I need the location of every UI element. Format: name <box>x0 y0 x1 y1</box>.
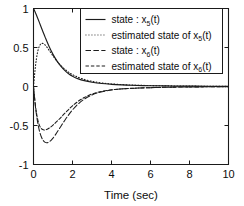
x-tick-label: 0 <box>30 168 36 180</box>
y-tick-label: 0 <box>22 81 28 93</box>
chart-figure: 0246810 -1-0.500.51 Time (sec) state : x… <box>0 0 244 206</box>
chart-legend[interactable]: state : x5(t)estimated state of x5(t)sta… <box>81 9 223 74</box>
legend-label-1: state : x5(t) <box>112 14 160 27</box>
legend-label-2: estimated state of x5(t) <box>112 30 212 43</box>
x-tick-label: 6 <box>147 168 153 180</box>
y-tick-label: 0.5 <box>13 42 28 54</box>
series-line-3 <box>34 87 229 143</box>
x-tick-label: 10 <box>222 168 234 180</box>
x-tick-label: 4 <box>108 168 114 180</box>
legend-label-3: state : x6(t) <box>112 45 160 58</box>
legend-label-4: estimated state of x6(t) <box>112 61 212 74</box>
x-tick-label: 2 <box>69 168 75 180</box>
line-chart: 0246810 -1-0.500.51 Time (sec) state : x… <box>0 0 244 206</box>
x-tick-label: 8 <box>186 168 192 180</box>
y-tick-label: -0.5 <box>10 120 29 132</box>
y-tick-label: -1 <box>19 159 29 171</box>
y-tick-label: 1 <box>22 3 28 15</box>
x-axis-label: Time (sec) <box>104 189 158 201</box>
